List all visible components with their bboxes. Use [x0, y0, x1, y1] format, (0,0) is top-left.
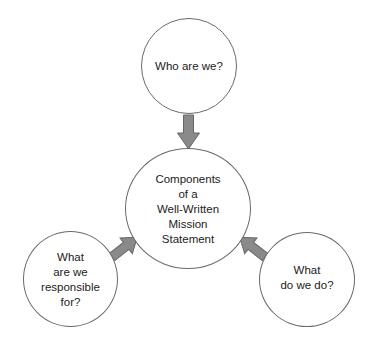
mission-statement-diagram: Who are we? Components of a Well-Written… — [0, 0, 371, 348]
node-what-do-we-do: What do we do? — [259, 232, 355, 327]
node-label: Who are we? — [155, 59, 223, 74]
arrow-top-to-center — [178, 115, 200, 149]
node-label: What are we responsible for? — [41, 248, 100, 310]
node-label: Components of a Well-Written Mission Sta… — [155, 170, 220, 247]
block-arrow-icon — [178, 115, 200, 149]
node-who-are-we: Who are we? — [141, 18, 237, 114]
node-label: What do we do? — [280, 263, 333, 297]
node-what-are-we-responsible-for: What are we responsible for? — [23, 231, 118, 327]
node-mission-statement-components: Components of a Well-Written Mission Sta… — [125, 148, 251, 269]
